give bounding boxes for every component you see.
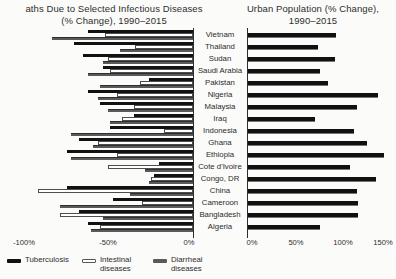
chart-row-congo-dr: Congo, DR: [0, 173, 396, 185]
bar-diarrheal-diseases-thailand: [120, 49, 193, 52]
bar-urban-population-malaysia: [247, 105, 357, 110]
chart-row-nigeria: Nigeria: [0, 89, 396, 101]
chart-row-ghana: Ghana: [0, 137, 396, 149]
chart-row-thailand: Thailand: [0, 41, 396, 53]
bar-urban-population-indonesia: [247, 129, 354, 134]
intestinal-swatch-icon: [82, 259, 96, 263]
left-plot-china: [20, 185, 193, 197]
bar-diarrheal-diseases-cameroon: [60, 205, 193, 208]
left-chart-title: aths Due to Selected Infectious Diseases…: [0, 3, 232, 27]
bar-urban-population-ethiopia: [247, 153, 384, 158]
right-chart-zero-axis-line: [247, 28, 248, 238]
bar-diarrheal-diseases-iraq: [110, 121, 193, 124]
chart-row-bangladesh: Bangladesh: [0, 209, 396, 221]
country-label-vietnam: Vietnam: [193, 29, 247, 41]
bar-urban-population-vietnam: [247, 33, 336, 38]
country-label-congo-dr: Congo, DR: [193, 173, 247, 185]
left-plot-malaysia: [20, 101, 193, 113]
left-plot-indonesia: [20, 125, 193, 137]
bar-diarrheal-diseases-nigeria: [98, 97, 193, 100]
right-plot-nigeria: [247, 89, 396, 101]
legend-label-intestinal: Intestinal diseases: [100, 256, 140, 274]
legend-item-tuberculosis: Tuberculosis: [7, 256, 69, 274]
left-plot-sudan: [20, 53, 193, 65]
legend-label-diarrheal: Diarrheal diseases: [171, 256, 211, 274]
right-plot-saudi-arabia: [247, 65, 396, 77]
legend-item-intestinal: Intestinal diseases: [82, 256, 140, 274]
left-plot-pakistan: [20, 77, 193, 89]
left-plot-congo-dr: [20, 173, 193, 185]
country-label-malaysia: Malaysia: [193, 101, 247, 113]
bar-diarrheal-diseases-algeria: [91, 229, 193, 232]
chart-row-saudi-arabia: Saudi Arabia: [0, 65, 396, 77]
left-plot-ghana: [20, 137, 193, 149]
bar-diarrheal-diseases-sudan: [103, 61, 193, 64]
left-axis-tick--50: -50%: [99, 238, 117, 247]
country-label-bangladesh: Bangladesh: [193, 209, 247, 221]
right-axis-tick-50: 50%: [288, 238, 303, 247]
left-plot-bangladesh: [20, 209, 193, 221]
left-chart-title-line2: (% Change), 1990–2015: [0, 15, 232, 27]
right-plot-malaysia: [247, 101, 396, 113]
right-plot-bangladesh: [247, 209, 396, 221]
bar-urban-population-ghana: [247, 141, 367, 146]
left-plot-cote-d-ivoire: [20, 161, 193, 173]
legend-label-tuberculosis: Tuberculosis: [25, 256, 69, 265]
chart-rows: VietnamThailandSudanSaudi ArabiaPakistan…: [0, 29, 396, 233]
left-axis-tick--100: -100%: [13, 238, 35, 247]
right-plot-algeria: [247, 221, 396, 233]
chart-row-cameroon: Cameroon: [0, 197, 396, 209]
right-plot-iraq: [247, 113, 396, 125]
bar-urban-population-nigeria: [247, 93, 378, 98]
chart-row-iraq: Iraq: [0, 113, 396, 125]
bar-urban-population-china: [247, 189, 357, 194]
bar-diarrheal-diseases-vietnam: [52, 37, 193, 40]
chart-row-malaysia: Malaysia: [0, 101, 396, 113]
country-label-sudan: Sudan: [193, 53, 247, 65]
bar-diarrheal-diseases-china: [130, 193, 193, 196]
left-plot-saudi-arabia: [20, 65, 193, 77]
right-plot-ghana: [247, 137, 396, 149]
bar-urban-population-cote-d-ivoire: [247, 165, 350, 170]
bar-diarrheal-diseases-bangladesh: [103, 217, 193, 220]
right-plot-congo-dr: [247, 173, 396, 185]
chart-row-vietnam: Vietnam: [0, 29, 396, 41]
bar-diarrheal-diseases-pakistan: [100, 85, 194, 88]
right-plot-ethiopia: [247, 149, 396, 161]
country-label-china: China: [193, 185, 247, 197]
bar-urban-population-bangladesh: [247, 213, 358, 218]
right-axis-tick-0: 0%: [247, 238, 258, 247]
left-axis-tick-0: 0%: [184, 238, 195, 247]
right-plot-vietnam: [247, 29, 396, 41]
country-label-ethiopia: Ethiopia: [193, 149, 247, 161]
right-plot-indonesia: [247, 125, 396, 137]
chart-row-indonesia: Indonesia: [0, 125, 396, 137]
bar-urban-population-algeria: [247, 225, 320, 230]
chart-row-cote-d-ivoire: Cote d'Ivoire: [0, 161, 396, 173]
right-plot-thailand: [247, 41, 396, 53]
x-axis-labels: -100% -50% 0% 0% 50% 100% 150%: [0, 238, 396, 248]
bar-urban-population-pakistan: [247, 81, 328, 86]
bar-diarrheal-diseases-cote-d-ivoire: [145, 169, 193, 172]
right-plot-pakistan: [247, 77, 396, 89]
left-plot-ethiopia: [20, 149, 193, 161]
bar-diarrheal-diseases-malaysia: [108, 109, 193, 112]
bar-diarrheal-diseases-congo-dr: [149, 181, 193, 184]
left-plot-thailand: [20, 41, 193, 53]
chart-row-china: China: [0, 185, 396, 197]
left-chart-title-line1: aths Due to Selected Infectious Diseases: [0, 3, 232, 15]
country-label-algeria: Algeria: [193, 221, 247, 233]
left-plot-nigeria: [20, 89, 193, 101]
country-label-thailand: Thailand: [193, 41, 247, 53]
country-label-ghana: Ghana: [193, 137, 247, 149]
right-chart-title-line1: Urban Population (% Change),: [232, 3, 394, 15]
bar-urban-population-sudan: [247, 57, 335, 62]
right-axis-tick-100: 100%: [333, 238, 352, 247]
bar-diarrheal-diseases-ethiopia: [71, 157, 193, 160]
bar-diarrheal-diseases-ghana: [93, 145, 193, 148]
country-label-saudi-arabia: Saudi Arabia: [193, 65, 247, 77]
right-axis-tick-150: 150%: [373, 238, 392, 247]
left-chart-zero-axis-line: [193, 28, 194, 238]
right-chart-title-line2: 1990–2015: [232, 15, 394, 27]
diarrheal-swatch-icon: [153, 259, 167, 263]
